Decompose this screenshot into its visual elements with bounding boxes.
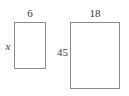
small-rectangle — [14, 22, 46, 69]
large-rectangle — [70, 22, 120, 89]
large-rectangle-height-label: 45 — [52, 47, 68, 58]
large-rectangle-width-label: 18 — [70, 8, 120, 19]
small-rectangle-width-label: 6 — [14, 8, 46, 19]
geometry-figure: 6 x 18 45 — [0, 0, 129, 96]
small-rectangle-height-label: x — [3, 41, 13, 52]
